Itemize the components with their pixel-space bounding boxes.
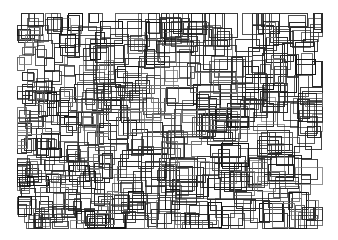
artwork-canvas <box>0 0 338 240</box>
rectangle-field-drawing <box>0 0 338 240</box>
